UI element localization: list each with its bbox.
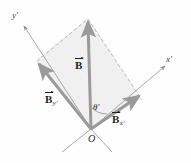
vector-b-label-base: B: [75, 60, 82, 71]
vector-bx-prime-label-subscript: x′: [120, 120, 125, 127]
vector-bx-prime-label: Bx′: [112, 111, 124, 127]
vector-b-arrow-icon: [75, 57, 82, 60]
vector-bx-prime-arrow-icon: [112, 111, 124, 114]
vector-by-prime-label-subscript: y′: [53, 100, 58, 107]
vector-by-prime-arrow-icon: [45, 91, 57, 94]
vector-bx-prime-label-base: B: [112, 114, 119, 125]
vector-diagram-figure: y′ x′ θ′ O B By′ Bx′: [0, 0, 191, 163]
vector-b-label: B: [75, 57, 82, 71]
x-prime-axis-label-prime: ′: [170, 54, 172, 64]
x-prime-axis-label: x′: [166, 55, 172, 64]
x-prime-axis-negative: [62, 129, 91, 152]
y-prime-axis-label-prime: ′: [16, 10, 18, 20]
angle-theta-prime-label: θ′: [93, 103, 99, 112]
y-prime-axis-label: y′: [12, 11, 18, 20]
vector-diagram-canvas: [0, 0, 191, 163]
origin-label: O: [88, 134, 95, 144]
vector-by-prime-label: By′: [45, 91, 57, 107]
angle-theta-prime: ′: [97, 102, 99, 112]
vector-by-prime-label-base: B: [45, 94, 52, 105]
